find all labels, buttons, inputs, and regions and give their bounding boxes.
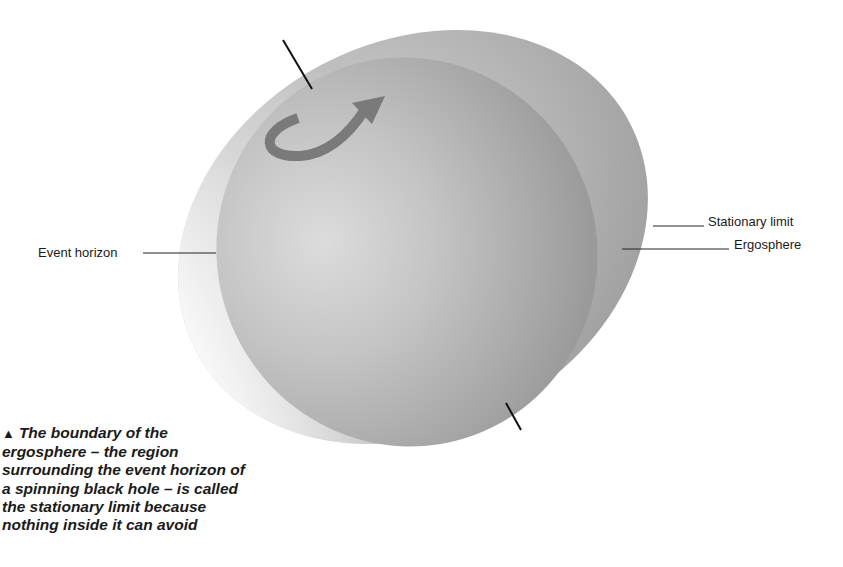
event-horizon-label: Event horizon (38, 245, 118, 261)
triangle-marker-icon: ▲ (2, 426, 15, 441)
caption-text: The boundary of the ergosphere – the reg… (2, 424, 245, 533)
figure-caption: ▲The boundary of the ergosphere – the re… (2, 424, 247, 534)
ergosphere-label: Ergosphere (734, 237, 801, 253)
stationary-limit-label: Stationary limit (708, 214, 793, 230)
